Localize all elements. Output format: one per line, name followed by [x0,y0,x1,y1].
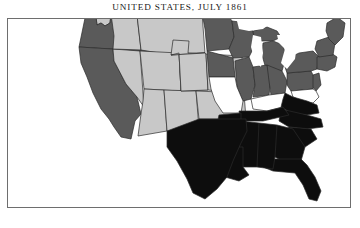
page-title: UNITED STATES, JULY 1861 [0,1,360,13]
map-region-iowa: Iowa [207,51,235,77]
map-frame: Washington TerritoryOregonCaliforniaNeva… [7,18,351,208]
united-states-map: Washington TerritoryOregonCaliforniaNeva… [8,19,350,207]
map-region-idaho-area: Washington Territory (east) [111,19,141,50]
map-region-minnesota: Minnesota [202,19,234,51]
map-figure: UNITED STATES, JULY 1861 Washington Terr… [0,0,360,228]
map-region-new-jersey: New Jersey [313,73,321,91]
map-region-ohio: Ohio [267,65,287,95]
map-region-utah-territory: Utah Territory [140,51,181,91]
map-region-dakota-territory: Dakota Territory [137,19,205,55]
map-region-lake-michigan: Lake Michigan [251,35,263,67]
map-region-pennsylvania: Pennsylvania [287,71,315,91]
